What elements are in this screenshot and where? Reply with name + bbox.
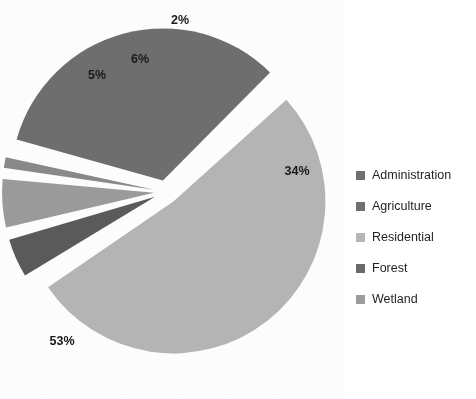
data-label-administration: 34% (284, 164, 309, 178)
data-label-forest: 5% (88, 68, 106, 82)
legend-item-agriculture[interactable]: Agriculture (356, 191, 474, 222)
data-label-agriculture: 53% (49, 334, 74, 348)
legend-swatch-forest (356, 264, 365, 273)
legend-swatch-administration (356, 171, 365, 180)
data-label-wetland: 2% (171, 13, 189, 27)
pie-chart: 34% 53% 6% 5% 2% Administration Agricult… (0, 0, 476, 399)
legend-label-agriculture: Agriculture (372, 200, 432, 213)
pie-svg: 34% 53% 6% 5% 2% (0, 0, 345, 399)
legend-item-forest[interactable]: Forest (356, 253, 474, 284)
data-label-residential: 6% (131, 52, 149, 66)
pie-plot-area: 34% 53% 6% 5% 2% (0, 0, 345, 399)
legend-label-administration: Administration (372, 169, 451, 182)
legend-label-forest: Forest (372, 262, 407, 275)
pie-slices (2, 28, 325, 353)
legend-item-wetland[interactable]: Wetland (356, 284, 474, 315)
legend-item-residential[interactable]: Residential (356, 222, 474, 253)
legend-swatch-wetland (356, 295, 365, 304)
legend-swatch-agriculture (356, 202, 365, 211)
legend-label-residential: Residential (372, 231, 434, 244)
legend-item-administration[interactable]: Administration (356, 160, 474, 191)
legend-label-wetland: Wetland (372, 293, 418, 306)
chart-legend: Administration Agriculture Residential F… (356, 160, 474, 315)
legend-swatch-residential (356, 233, 365, 242)
